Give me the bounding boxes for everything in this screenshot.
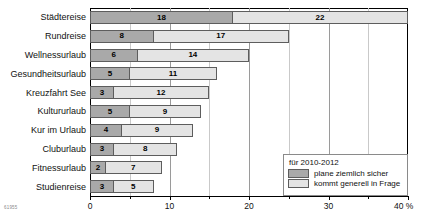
bar-segment: 9 bbox=[122, 124, 194, 137]
stacked-bar: 38 bbox=[90, 143, 177, 156]
bar-value-label: 3 bbox=[100, 89, 104, 97]
legend: für 2010-2012 plane ziemlich sicherkommt… bbox=[283, 154, 408, 196]
x-axis-ticks: 010203040 % bbox=[90, 196, 409, 218]
category-label: Cluburlaub bbox=[42, 140, 86, 159]
x-tick-label: 10 bbox=[165, 201, 174, 211]
bar-segment: 12 bbox=[114, 86, 209, 99]
bar-segment: 22 bbox=[233, 11, 408, 24]
bar-value-label: 8 bbox=[143, 145, 147, 153]
x-tick-label: 30 bbox=[324, 201, 333, 211]
legend-swatch-light bbox=[288, 179, 309, 188]
stacked-bar: 59 bbox=[90, 105, 201, 118]
bar-segment: 9 bbox=[130, 105, 202, 118]
legend-label: plane ziemlich sicher bbox=[314, 169, 388, 178]
bar-segment: 5 bbox=[90, 67, 130, 80]
source-id: 61955 bbox=[4, 205, 18, 210]
x-tick bbox=[408, 196, 409, 200]
category-label: Kultururlaub bbox=[37, 102, 86, 121]
category-label: Studienreise bbox=[36, 177, 86, 196]
x-tick-label: 0 bbox=[88, 201, 93, 211]
stacked-bar: 312 bbox=[90, 86, 209, 99]
bar-value-label: 17 bbox=[216, 32, 225, 40]
x-tick bbox=[329, 196, 330, 200]
bar-row: 59 bbox=[90, 102, 408, 121]
bar-segment: 3 bbox=[90, 86, 114, 99]
legend-swatch-dark bbox=[288, 169, 309, 178]
category-label: Wellnessurlaub bbox=[25, 46, 86, 65]
bar-value-label: 4 bbox=[104, 126, 108, 134]
bar-value-label: 2 bbox=[96, 164, 100, 172]
bar-value-label: 8 bbox=[120, 32, 124, 40]
x-tick bbox=[130, 196, 131, 199]
stacked-bar: 614 bbox=[90, 49, 249, 62]
category-label: Kreuzfahrt See bbox=[26, 83, 86, 102]
category-label: Fitnessurlaub bbox=[32, 158, 86, 177]
category-label: Kur im Urlaub bbox=[31, 121, 86, 140]
bar-segment: 5 bbox=[90, 105, 130, 118]
stacked-bar: 27 bbox=[90, 161, 162, 174]
bar-row: 614 bbox=[90, 46, 408, 65]
bar-segment: 17 bbox=[154, 30, 289, 43]
bar-segment: 8 bbox=[114, 143, 178, 156]
category-label: Gesundheitsurlaub bbox=[10, 64, 86, 83]
bar-value-label: 3 bbox=[100, 145, 104, 153]
bar-value-label: 22 bbox=[316, 14, 325, 22]
bar-row: 511 bbox=[90, 64, 408, 83]
bar-segment: 14 bbox=[138, 49, 249, 62]
x-tick bbox=[368, 196, 369, 199]
bar-segment: 8 bbox=[90, 30, 154, 43]
bar-value-label: 5 bbox=[131, 183, 135, 191]
bar-value-label: 5 bbox=[108, 108, 112, 116]
x-tick bbox=[289, 196, 290, 199]
bar-value-label: 14 bbox=[188, 51, 197, 59]
legend-entry: plane ziemlich sicher bbox=[288, 169, 403, 178]
bar-value-label: 5 bbox=[108, 70, 112, 78]
bar-segment: 3 bbox=[90, 180, 114, 193]
bar-segment: 4 bbox=[90, 124, 122, 137]
category-label: Städtereise bbox=[40, 8, 86, 27]
stacked-bar: 35 bbox=[90, 180, 154, 193]
bar-value-label: 6 bbox=[112, 51, 116, 59]
bar-value-label: 12 bbox=[157, 89, 166, 97]
x-tick bbox=[249, 196, 250, 200]
bar-value-label: 18 bbox=[157, 14, 166, 22]
legend-label: kommt generell in Frage bbox=[314, 179, 400, 188]
stacked-bar: 511 bbox=[90, 67, 217, 80]
bar-value-label: 3 bbox=[100, 183, 104, 191]
bar-segment: 5 bbox=[114, 180, 154, 193]
bar-row: 312 bbox=[90, 83, 408, 102]
legend-entry: kommt generell in Frage bbox=[288, 179, 403, 188]
bar-segment: 6 bbox=[90, 49, 138, 62]
stacked-bar: 817 bbox=[90, 30, 289, 43]
bar-segment: 18 bbox=[90, 11, 233, 24]
x-tick-label: 40 % bbox=[394, 201, 413, 211]
x-tick bbox=[209, 196, 210, 199]
bar-chart: StädtereiseRundreiseWellnessurlaubGesund… bbox=[0, 0, 423, 223]
legend-entries: plane ziemlich sicherkommt generell in F… bbox=[288, 169, 403, 188]
bar-row: 817 bbox=[90, 27, 408, 46]
bar-segment: 7 bbox=[106, 161, 162, 174]
bar-segment: 2 bbox=[90, 161, 106, 174]
stacked-bar: 1822 bbox=[90, 11, 408, 24]
x-tick bbox=[170, 196, 171, 200]
bar-segment: 3 bbox=[90, 143, 114, 156]
category-label: Rundreise bbox=[45, 27, 86, 46]
bar-segment: 11 bbox=[130, 67, 217, 80]
stacked-bar: 49 bbox=[90, 124, 193, 137]
bar-value-label: 9 bbox=[155, 126, 159, 134]
bar-value-label: 9 bbox=[163, 108, 167, 116]
bar-value-label: 7 bbox=[131, 164, 135, 172]
bar-row: 1822 bbox=[90, 8, 408, 27]
legend-title: für 2010-2012 bbox=[289, 158, 403, 167]
x-tick bbox=[90, 196, 91, 200]
x-tick-label: 20 bbox=[244, 201, 253, 211]
bar-row: 49 bbox=[90, 121, 408, 140]
bar-value-label: 11 bbox=[169, 70, 177, 78]
